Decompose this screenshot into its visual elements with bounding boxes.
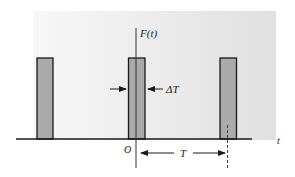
period-label: T xyxy=(180,147,187,159)
t-axis-label: t xyxy=(277,135,280,146)
f-of-t-label: F(t) xyxy=(139,27,157,40)
delta-t-label: ΔT xyxy=(165,83,179,95)
pulse-right xyxy=(220,58,237,139)
pulse-left xyxy=(37,58,53,139)
pulse-train-diagram: F(t) t O ΔT T xyxy=(0,0,295,177)
origin-label: O xyxy=(124,144,131,155)
pulse-center xyxy=(129,58,146,139)
